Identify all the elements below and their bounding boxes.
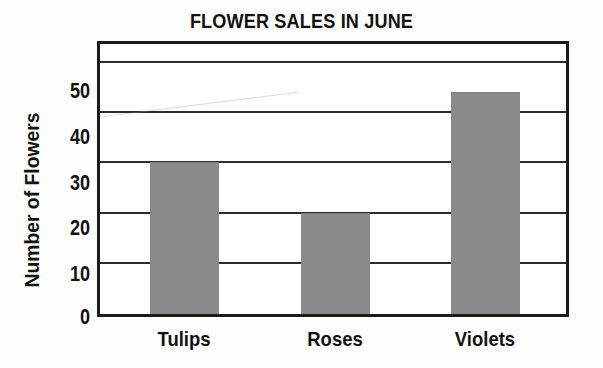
gridline-50: [100, 61, 566, 63]
y-tick-label: 10: [62, 261, 90, 287]
y-tick-label: 50: [62, 78, 90, 104]
chart-title: FLOWER SALES IN JUNE: [42, 9, 561, 33]
y-tick-label: 0: [62, 304, 90, 330]
y-axis-title: Number of Flowers: [20, 80, 44, 319]
category-label-roses: Roses: [265, 327, 406, 351]
bar-roses: [301, 213, 370, 314]
bar-tulips: [150, 162, 219, 314]
category-label-violets: Violets: [415, 327, 556, 351]
y-tick-label: 30: [62, 170, 90, 196]
scan-artifact: [101, 92, 300, 117]
chart-figure: FLOWER SALES IN JUNE Number of Flowers 5…: [0, 0, 603, 368]
category-label-tulips: Tulips: [114, 327, 255, 351]
bar-violets: [451, 92, 520, 314]
y-tick-label: 20: [62, 215, 90, 241]
plot-area: [97, 41, 569, 317]
y-tick-label: 40: [62, 124, 90, 150]
